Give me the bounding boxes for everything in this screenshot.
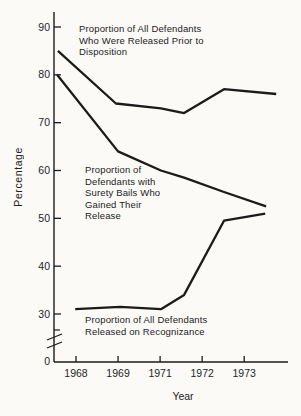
bail-release-trends-figure: Percentage Year Proportion of All Defend… — [0, 0, 301, 416]
x-tick-label: 1968 — [58, 367, 94, 379]
annotation-released-on-recognizance: Proportion of All Defendants Released on… — [85, 314, 255, 337]
y-tick-label: 80 — [20, 68, 50, 80]
y-tick-label: 70 — [20, 116, 50, 128]
series-line-0 — [58, 51, 276, 113]
y-tick-label: 60 — [20, 164, 50, 176]
series-line-2 — [75, 214, 265, 310]
x-axis-title: Year — [163, 390, 203, 402]
y-tick-label: 30 — [20, 308, 50, 320]
y-tick-label: 40 — [20, 260, 50, 272]
x-tick-label: 1969 — [100, 367, 136, 379]
annotation-released-prior-to-disposition: Proportion of All Defendants Who Were Re… — [79, 23, 249, 58]
y-origin-label: 0 — [20, 355, 50, 367]
x-tick-label: 1971 — [142, 367, 178, 379]
y-axis-title: Percentage — [12, 147, 24, 207]
y-tick-label: 50 — [20, 212, 50, 224]
y-tick-label: 90 — [20, 21, 50, 33]
x-tick-label: 1972 — [184, 367, 220, 379]
x-tick-label: 1973 — [226, 367, 262, 379]
annotation-surety-bails: Proportion of Defendants with Surety Bai… — [85, 164, 195, 222]
